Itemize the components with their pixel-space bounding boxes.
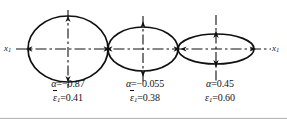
caption-middle-strain-relation: =0.38 bbox=[137, 92, 160, 103]
caption-ellipse-right: α=0.45 ε1=0.60 bbox=[177, 77, 263, 105]
caption-right-strain-relation: =0.60 bbox=[212, 92, 235, 103]
axis-label-left: x1 bbox=[4, 44, 11, 54]
axis-label-left-sub: 1 bbox=[8, 46, 11, 53]
caption-middle-strain-symbol: ε bbox=[130, 91, 134, 105]
caption-right-strain-line: ε1=0.60 bbox=[177, 91, 263, 105]
caption-middle-alpha-relation: =−0.055 bbox=[131, 78, 164, 89]
ellipse-right-left-tick bbox=[181, 47, 187, 52]
caption-right-alpha-relation: =0.45 bbox=[211, 78, 234, 89]
axis-label-right-sub: 1 bbox=[276, 46, 279, 53]
caption-right-alpha-line: α=0.45 bbox=[177, 77, 263, 91]
ellipse-left-top-tick bbox=[65, 16, 70, 22]
axis-label-right: x1 bbox=[272, 44, 279, 54]
caption-left-strain-relation: =0.41 bbox=[60, 92, 83, 103]
strain-ellipse-figure: x1 x1 α=−0.87 ε1=0.41 α=−0.055 ε1=0.38 α… bbox=[0, 0, 287, 119]
caption-left-alpha-relation: =−0.87 bbox=[56, 78, 84, 89]
caption-left-strain-symbol: ε bbox=[53, 91, 57, 105]
ellipse-middle-left-tick bbox=[106, 46, 113, 51]
